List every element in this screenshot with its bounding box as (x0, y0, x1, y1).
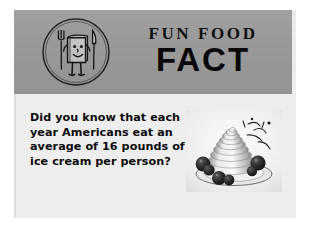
wordmark-line-fact: FACT (124, 43, 282, 77)
screenshot-canvas: FUN FOOD FACT Did you know that each yea… (0, 0, 310, 229)
card-header: FUN FOOD FACT (14, 10, 292, 94)
card-body: Did you know that each year Americans ea… (14, 94, 296, 218)
fact-text: Did you know that each year Americans ea… (30, 111, 186, 169)
ice-cream-sundae-photo (186, 110, 282, 192)
fun-food-fact-card: FUN FOOD FACT Did you know that each yea… (14, 10, 296, 218)
card-wordmark: FUN FOOD FACT (122, 24, 282, 77)
fun-food-mascot-medallion-icon (40, 16, 112, 88)
